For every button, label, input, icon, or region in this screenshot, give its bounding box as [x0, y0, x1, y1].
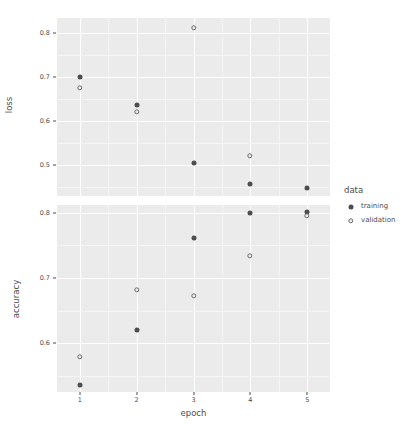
gridline-vertical-minor — [165, 205, 166, 392]
gridline-horizontal-minor — [57, 55, 330, 56]
x-tick-mark — [79, 392, 80, 395]
y-tick-label-text: 0.5 — [40, 162, 50, 169]
gridline-horizontal — [57, 278, 330, 279]
data-point-validation — [77, 86, 82, 91]
data-point-validation — [77, 355, 82, 360]
gridline-horizontal — [57, 343, 330, 344]
y-tick-label-text: 0.8 — [40, 30, 50, 37]
data-point-training — [134, 102, 139, 107]
data-point-training — [134, 328, 139, 333]
data-point-validation — [134, 109, 139, 114]
data-point-validation — [191, 25, 196, 30]
gridline-vertical — [250, 18, 251, 196]
data-point-validation — [248, 254, 253, 259]
legend-title: data — [344, 186, 418, 195]
x-tick-label: 1 — [78, 397, 82, 404]
panel-accuracy — [57, 205, 330, 392]
x-tick-mark — [193, 392, 194, 395]
gridline-horizontal-minor — [57, 143, 330, 144]
y-tick-mark — [53, 212, 56, 213]
gridline-vertical-minor — [165, 18, 166, 196]
data-point-validation — [248, 153, 253, 158]
legend-item-validation[interactable]: validation — [344, 214, 418, 228]
y-axis-label-accuracy: accuracy — [11, 269, 21, 329]
gridline-vertical — [307, 205, 308, 392]
data-point-training — [77, 75, 82, 80]
gridline-vertical-minor — [279, 205, 280, 392]
gridline-horizontal — [57, 77, 330, 78]
legend: data training validation — [344, 186, 418, 228]
data-point-training — [248, 210, 253, 215]
y-tick-label-text: 0.6 — [40, 340, 50, 347]
y-tick-mark — [53, 165, 56, 166]
gridline-horizontal-minor — [57, 187, 330, 188]
data-point-training — [191, 235, 196, 240]
gridline-vertical-minor — [108, 205, 109, 392]
x-tick-mark — [250, 392, 251, 395]
gridline-vertical — [137, 205, 138, 392]
gridline-horizontal-minor — [57, 245, 330, 246]
y-tick-label-text: 0.7 — [40, 275, 50, 282]
data-point-training — [191, 161, 196, 166]
gridline-vertical — [80, 18, 81, 196]
scatter-plot-figure: loss accuracy epoch data training valida… — [0, 0, 419, 438]
legend-label-training: training — [358, 203, 388, 210]
panel-loss — [57, 18, 330, 196]
gridline-vertical-minor — [279, 18, 280, 196]
gridline-vertical — [307, 18, 308, 196]
data-point-validation — [305, 213, 310, 218]
gridline-vertical-minor — [108, 18, 109, 196]
x-tick-mark — [136, 392, 137, 395]
x-axis-label: epoch — [57, 408, 330, 418]
gridline-vertical-minor — [222, 205, 223, 392]
legend-label-validation: validation — [358, 217, 395, 224]
legend-item-training[interactable]: training — [344, 200, 418, 214]
y-tick-mark — [53, 77, 56, 78]
legend-swatch-training-icon — [344, 200, 358, 214]
data-point-validation — [191, 294, 196, 299]
data-point-training — [77, 383, 82, 388]
x-tick-label: 3 — [191, 397, 195, 404]
gridline-vertical — [194, 18, 195, 196]
y-tick-label-text: 0.8 — [40, 210, 50, 217]
y-tick-mark — [53, 121, 56, 122]
y-tick-label-text: 0.6 — [40, 118, 50, 125]
y-axis-label-loss: loss — [4, 75, 14, 135]
gridline-horizontal-minor — [57, 99, 330, 100]
y-tick-mark — [53, 33, 56, 34]
legend-swatch-validation-icon — [344, 214, 358, 228]
gridline-vertical — [80, 205, 81, 392]
x-tick-label: 4 — [248, 397, 252, 404]
x-tick-label: 2 — [135, 397, 139, 404]
data-point-validation — [134, 287, 139, 292]
gridline-vertical-minor — [222, 18, 223, 196]
gridline-vertical — [250, 205, 251, 392]
gridline-horizontal-minor — [57, 376, 330, 377]
x-tick-mark — [307, 392, 308, 395]
x-tick-label: 5 — [305, 397, 309, 404]
y-tick-label-text: 0.7 — [40, 74, 50, 81]
y-tick-mark — [53, 277, 56, 278]
y-tick-mark — [53, 343, 56, 344]
data-point-training — [248, 181, 253, 186]
gridline-horizontal — [57, 213, 330, 214]
gridline-horizontal — [57, 33, 330, 34]
gridline-horizontal — [57, 121, 330, 122]
data-point-training — [305, 186, 310, 191]
gridline-horizontal-minor — [57, 311, 330, 312]
